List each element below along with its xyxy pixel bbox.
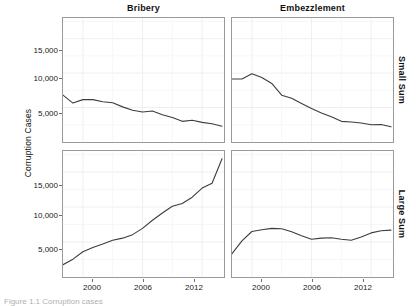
y-tick-label-bottom-10000: 10,000 [14,211,58,220]
x-tick-label-left-2000: 2000 [72,283,112,292]
y-tick-label-top-5000: 5,000 [14,109,58,118]
x-tick-label-right-2012: 2012 [343,283,383,292]
facet-row-label-small-sum: Small Sum [394,17,410,143]
y-tick-label-bottom-5000: 5,000 [14,245,58,254]
facet-row-label-small-sum-text: Small Sum [397,56,407,104]
facet-column-label-bribery: Bribery [62,2,225,15]
x-tick-mark-left-2000 [92,279,93,282]
x-tick-mark-right-2000 [261,279,262,282]
x-tick-label-right-2000: 2000 [241,283,281,292]
panel-bribery-large-sum [62,150,225,278]
facet-row-label-large-sum: Large Sum [394,150,410,278]
figure-caption: Figure 1.1 Corruption cases [4,297,103,306]
y-tick-label-top-10000: 10,000 [14,74,58,83]
plot-area [63,18,224,142]
plot-area [232,18,393,142]
x-tick-mark-right-2012 [363,279,364,282]
x-tick-mark-right-2006 [312,279,313,282]
x-tick-label-left-2006: 2006 [123,283,163,292]
x-tick-label-right-2006: 2006 [292,283,332,292]
panel-bribery-small-sum [62,17,225,143]
facet-column-label-embezzlement: Embezzlement [231,2,394,15]
plot-area [63,151,224,277]
x-tick-mark-left-2006 [143,279,144,282]
facet-row-label-large-sum-text: Large Sum [397,190,407,238]
x-tick-label-left-2012: 2012 [174,283,214,292]
panel-embezzlement-large-sum [231,150,394,278]
panel-embezzlement-small-sum [231,17,394,143]
plot-area [232,151,393,277]
x-tick-mark-left-2012 [194,279,195,282]
y-tick-label-bottom-15000: 15,000 [14,181,58,190]
y-tick-label-top-15000: 15,000 [14,46,58,55]
y-axis-title: Corruption Cases [23,63,33,223]
